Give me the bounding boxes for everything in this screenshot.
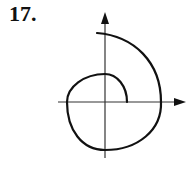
x-axis-arrow-icon [174, 98, 186, 106]
spiral-curve [67, 33, 161, 150]
spiral-figure [0, 0, 189, 175]
y-axis-arrow-icon [101, 12, 109, 24]
